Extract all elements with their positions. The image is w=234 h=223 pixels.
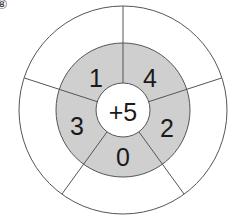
inner-value-2: 4 — [143, 64, 157, 92]
addition-wheel-diagram: +5 1 4 2 0 3 — [0, 0, 234, 223]
inner-value-5: 3 — [70, 112, 84, 140]
inner-value-1: 1 — [89, 64, 103, 92]
center-value: +5 — [109, 98, 138, 126]
inner-value-4: 0 — [116, 143, 130, 171]
inner-value-3: 2 — [160, 114, 174, 142]
